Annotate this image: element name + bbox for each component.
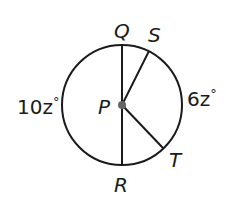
radius-PS (122, 51, 149, 105)
label-P: P (98, 95, 111, 119)
arc-label-left: 10z° (17, 94, 59, 119)
label-Q: Q (114, 19, 130, 43)
radius-PT (122, 105, 163, 148)
circle-diagram: Q S P T R 10z° 6z° (0, 0, 226, 199)
center-point (118, 101, 126, 109)
label-S: S (148, 23, 161, 47)
label-T: T (169, 148, 183, 172)
arc-label-right: 6z° (187, 86, 217, 111)
label-R: R (114, 173, 128, 197)
